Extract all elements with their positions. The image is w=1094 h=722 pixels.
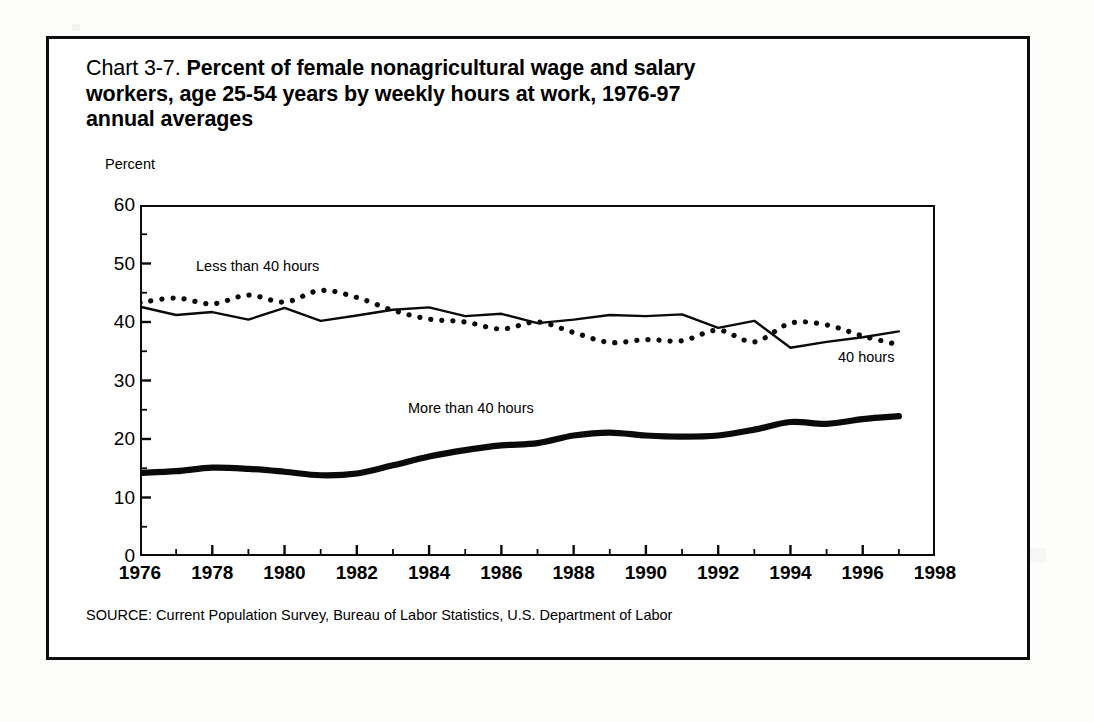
x-tick-1990: 1990 (625, 562, 667, 584)
x-tick-1992: 1992 (697, 562, 739, 584)
y-tick-60: 60 (101, 194, 135, 216)
chart-number: Chart 3-7. (86, 56, 181, 80)
x-tick-1976: 1976 (119, 562, 161, 584)
x-tick-1996: 1996 (842, 562, 884, 584)
y-axis-title: Percent (105, 156, 155, 172)
x-tick-1984: 1984 (408, 562, 450, 584)
page-background: Chart 3-7. Percent of female nonagricult… (0, 0, 1094, 722)
scan-speck-1 (72, 24, 80, 31)
page-title: Chart 3-7. Percent of female nonagricult… (86, 56, 726, 133)
source-note: SOURCE: Current Population Survey, Burea… (86, 607, 672, 623)
series-label-less-than-40: Less than 40 hours (196, 258, 319, 274)
y-tick-10: 10 (101, 487, 135, 509)
y-tick-40: 40 (101, 311, 135, 333)
x-tick-1988: 1988 (552, 562, 594, 584)
y-axis-ticks: 0 10 20 30 40 50 60 (95, 205, 135, 556)
x-axis-ticks: 1976 1978 1980 1982 1984 1986 1988 1990 … (140, 562, 935, 588)
x-tick-1994: 1994 (769, 562, 811, 584)
x-tick-1986: 1986 (480, 562, 522, 584)
x-tick-1980: 1980 (263, 562, 305, 584)
x-tick-1978: 1978 (191, 562, 233, 584)
x-tick-1998: 1998 (914, 562, 956, 584)
series-label-40-hours: 40 hours (838, 349, 894, 365)
y-tick-30: 30 (101, 370, 135, 392)
x-tick-1982: 1982 (336, 562, 378, 584)
y-tick-20: 20 (101, 428, 135, 450)
series-label-more-than-40: More than 40 hours (408, 400, 534, 416)
y-tick-50: 50 (101, 253, 135, 275)
